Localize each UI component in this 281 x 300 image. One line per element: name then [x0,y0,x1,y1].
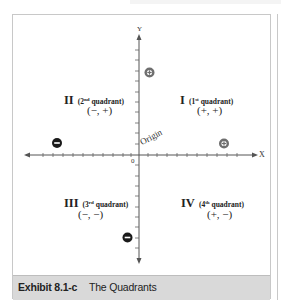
x-axis [24,153,258,158]
quadrant-numeral: IV [181,196,195,210]
quadrant-iv-signs: (+, −) [207,208,232,220]
quadrant-numeral: III [64,196,79,210]
exhibit-caption: Exhibit 8.1-c The Quadrants [13,275,270,300]
x-axis-label: X [259,150,265,159]
y-axis-up-arrow-icon [137,34,142,40]
quadrant-numeral: II [64,93,74,107]
x-axis-right-arrow-icon [252,153,258,158]
exhibit-title: The Quadrants [89,281,156,293]
x-axis-left-arrow-icon [24,153,30,158]
quadrant-i-signs: (+, +) [197,104,222,116]
exhibit-number: Exhibit 8.1-c [18,281,77,293]
quadrant-iii-signs: (−, −) [78,208,103,220]
quadrant-numeral: I [180,93,185,107]
minus-marker-icon [52,138,62,148]
plus-marker-icon [145,68,155,78]
minus-marker-icon [123,233,133,243]
y-axis-ticks [135,50,139,248]
coordinate-plane [0,0,281,300]
y-axis-down-arrow-icon [137,258,142,264]
zero-label: 0 [131,157,135,165]
y-axis-label: Y [137,25,142,33]
quadrant-ii-signs: (−, +) [87,104,112,116]
y-axis [135,34,142,264]
plus-marker-icon [219,139,229,149]
